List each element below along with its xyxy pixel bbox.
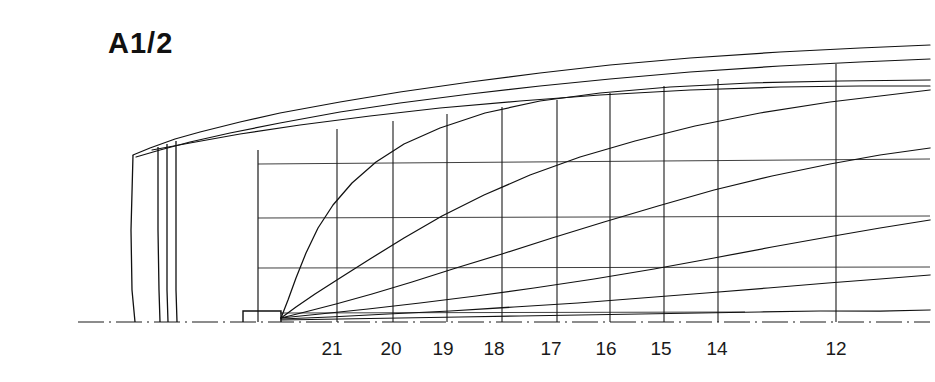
sheer-intermediate — [152, 86, 930, 150]
station-label-16: 16 — [595, 338, 616, 360]
station-label-18: 18 — [483, 338, 504, 360]
station-label-21: 21 — [321, 338, 342, 360]
station-label-15: 15 — [650, 338, 671, 360]
transom-outer — [131, 155, 135, 322]
waterline-1 — [258, 159, 930, 164]
page-title: A1/2 — [108, 27, 173, 60]
waterline-3 — [258, 267, 930, 268]
buttock-3 — [281, 148, 930, 318]
keel-block — [243, 311, 281, 322]
station-label-20: 20 — [380, 338, 401, 360]
sheer-lines-group — [133, 45, 930, 157]
transom-lines-group — [131, 141, 177, 322]
waterline-2 — [258, 216, 930, 218]
station-lines-group — [337, 64, 836, 322]
transom-inner-3 — [176, 141, 177, 322]
station-label-14: 14 — [706, 338, 727, 360]
transom-inner-2 — [167, 144, 168, 322]
buttock-lines-group — [281, 80, 930, 320]
buttock-4 — [281, 220, 930, 318]
buttock-2 — [281, 90, 930, 318]
transom-inner-1 — [158, 147, 160, 322]
lines-plan-drawing: A1/2 212019181716151412 — [0, 0, 935, 382]
station-label-17: 17 — [540, 338, 561, 360]
waterlines-group — [258, 159, 930, 313]
station-label-19: 19 — [432, 338, 453, 360]
station-label-12: 12 — [825, 338, 846, 360]
